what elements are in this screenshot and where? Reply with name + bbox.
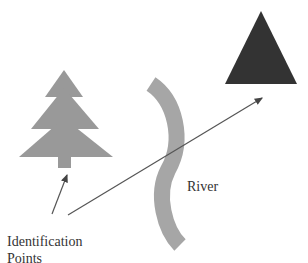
arrow-to-tree (52, 175, 67, 214)
identification-label-line1: Identification (7, 233, 127, 250)
identification-points-label: Identification Points (7, 233, 127, 263)
diagram-canvas (0, 0, 308, 263)
river-shape (151, 84, 180, 245)
river-label: River (187, 178, 218, 195)
identification-label-line2: Points (7, 250, 127, 263)
tree-shape (19, 70, 113, 168)
triangle-shape (225, 11, 297, 84)
